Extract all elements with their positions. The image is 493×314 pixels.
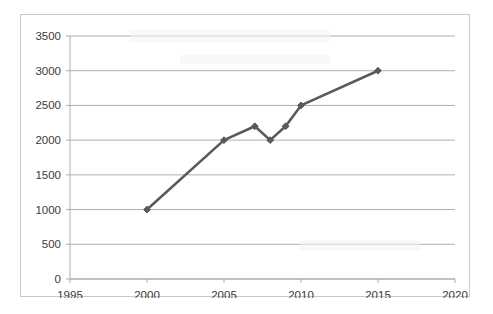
y-axis-group	[66, 36, 70, 279]
gridlines-group	[70, 36, 455, 279]
y-tick-label: 2500	[35, 99, 61, 111]
x-tick-label: 2010	[288, 289, 314, 298]
x-axis-group	[70, 279, 455, 283]
y-tick-label: 500	[42, 238, 61, 250]
line-chart: 0500100015002000250030003500 19952000200…	[21, 15, 471, 298]
y-tick-label: 3500	[35, 30, 61, 42]
y-tick-labels-group: 0500100015002000250030003500	[35, 30, 61, 285]
y-tick-label: 0	[55, 273, 61, 285]
y-tick-label: 1500	[35, 169, 61, 181]
y-tick-label: 3000	[35, 65, 61, 77]
x-tick-label: 2005	[211, 289, 237, 298]
x-tick-label: 2015	[365, 289, 391, 298]
x-tick-label: 2020	[442, 289, 468, 298]
x-tick-label: 2000	[134, 289, 160, 298]
y-tick-label: 1000	[35, 204, 61, 216]
y-tick-label: 2000	[35, 134, 61, 146]
x-tick-labels-group: 199520002005201020152020	[57, 289, 468, 298]
x-tick-label: 1995	[57, 289, 83, 298]
chart-frame: 0500100015002000250030003500 19952000200…	[20, 14, 470, 297]
